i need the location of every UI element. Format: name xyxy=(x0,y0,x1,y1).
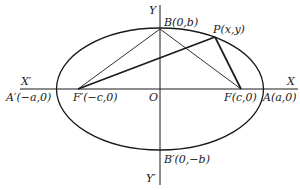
y-negative-label: Y′ xyxy=(146,172,156,185)
point-p-label: P(x,y) xyxy=(212,23,245,36)
segment-fprime-b xyxy=(78,29,160,89)
origin-label: O xyxy=(149,91,158,104)
ellipse-diagram: X′ X Y Y′ O A′(−a,0) F′(−c,0) F(c,0) A(a… xyxy=(0,0,300,190)
point-a-prime-label: A′(−a,0) xyxy=(5,91,51,104)
point-a-label: A(a,0) xyxy=(262,91,297,104)
point-b-label: B(0,b) xyxy=(163,16,198,29)
y-positive-label: Y xyxy=(149,4,158,17)
x-negative-label: X′ xyxy=(20,75,32,88)
point-f-prime-label: F′(−c,0) xyxy=(72,91,118,104)
point-b-prime-label: B′(0,−b) xyxy=(163,153,210,166)
segment-p-f xyxy=(215,37,241,89)
x-positive-label: X xyxy=(286,75,296,88)
segment-b-f xyxy=(160,29,241,89)
segment-fprime-p xyxy=(78,37,215,89)
point-f-label: F(c,0) xyxy=(223,91,257,104)
